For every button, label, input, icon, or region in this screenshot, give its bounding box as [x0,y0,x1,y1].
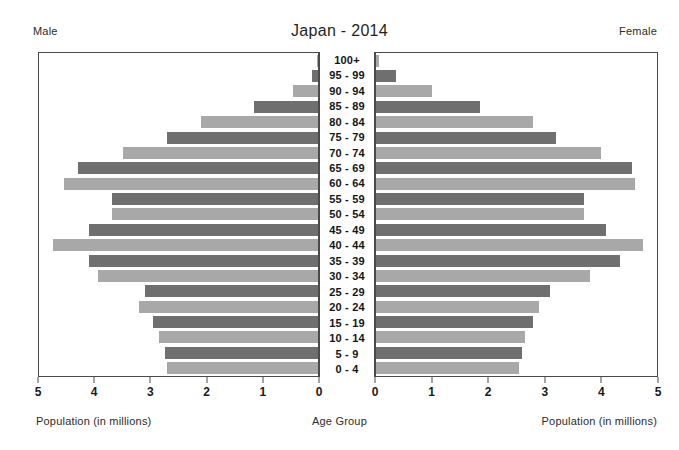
bar-row [39,238,318,253]
female-bar-60-64 [376,178,635,190]
bar-row [39,191,318,206]
bar-row [39,130,318,145]
female-bar-rows [376,53,657,376]
axis-tick-label: 2 [203,385,210,399]
axis-tick [544,377,545,383]
axis-tick-label: 4 [91,385,98,399]
female-bar-5-9 [376,347,522,359]
female-side-label: Female [619,25,657,37]
female-axis-title: Population (in millions) [542,415,657,427]
bar-row [376,207,657,222]
female-bar-55-59 [376,193,584,205]
age-group-label: 25 - 29 [320,284,374,299]
axis-tick [658,377,659,383]
female-bar-100+ [376,55,379,67]
age-group-label: 40 - 44 [320,238,374,253]
male-bar-30-34 [98,270,318,282]
female-bar-15-19 [376,316,533,328]
female-bar-50-54 [376,208,584,220]
axis-tick [488,377,489,383]
bar-row [39,253,318,268]
female-bar-70-74 [376,147,601,159]
male-bar-80-84 [201,116,318,128]
bar-row [376,161,657,176]
male-bar-10-14 [159,331,318,343]
age-group-label: 75 - 79 [320,129,374,144]
axis-tick [319,377,320,383]
axis-tick [206,377,207,383]
age-group-label: 20 - 24 [320,300,374,315]
axis-tick-label: 2 [485,385,492,399]
male-bar-rows [39,53,318,376]
bar-row [39,222,318,237]
female-bar-0-4 [376,362,519,374]
male-bar-90-94 [293,85,318,97]
age-group-label: 80 - 84 [320,114,374,129]
age-group-axis-column: 100+95 - 9990 - 9485 - 8980 - 8475 - 797… [319,52,375,377]
bar-row [39,68,318,83]
age-group-label: 0 - 4 [320,361,374,376]
male-x-axis: 543210 [38,377,319,407]
bar-row [39,314,318,329]
bar-row [39,299,318,314]
female-bar-35-39 [376,255,620,267]
bar-row [376,253,657,268]
male-bar-50-54 [112,208,318,220]
male-bar-100+ [317,55,318,67]
male-bar-75-79 [167,132,318,144]
male-bar-40-44 [53,239,318,251]
male-bar-5-9 [165,347,318,359]
female-bar-80-84 [376,116,533,128]
bar-row [376,191,657,206]
axis-tick-label: 5 [35,385,42,399]
age-group-label: 100+ [320,52,374,67]
bar-row [39,53,318,68]
female-bar-75-79 [376,132,556,144]
axis-tick [150,377,151,383]
female-bar-30-34 [376,270,590,282]
axis-tick [94,377,95,383]
chart-title: Japan - 2014 [0,22,679,40]
male-plot-area [38,52,319,377]
male-bar-15-19 [153,316,318,328]
chart-header: Male Japan - 2014 Female [0,22,679,44]
bar-row [376,68,657,83]
male-bar-25-29 [145,285,318,297]
age-group-label: 45 - 49 [320,222,374,237]
bar-row [376,330,657,345]
male-bar-65-69 [78,162,318,174]
age-group-label: 50 - 54 [320,207,374,222]
bar-row [376,53,657,68]
bar-row [39,84,318,99]
age-group-label: 95 - 99 [320,67,374,82]
axis-tick [601,377,602,383]
bar-row [376,238,657,253]
bar-row [39,115,318,130]
male-bar-70-74 [123,147,318,159]
bar-row [39,345,318,360]
axis-tick [431,377,432,383]
female-bar-20-24 [376,301,539,313]
female-plot-area [375,52,658,377]
bar-row [376,345,657,360]
bar-row [39,99,318,114]
male-bar-45-49 [89,224,318,236]
male-bar-60-64 [64,178,318,190]
female-bar-65-69 [376,162,632,174]
axis-tick-label: 3 [541,385,548,399]
age-group-label: 90 - 94 [320,83,374,98]
male-bar-95-99 [312,70,318,82]
axis-tick-label: 5 [655,385,662,399]
female-bar-90-94 [376,85,432,97]
axis-tick-label: 1 [428,385,435,399]
axis-tick-label: 3 [147,385,154,399]
bar-row [376,284,657,299]
bar-row [39,161,318,176]
male-bar-0-4 [167,362,318,374]
bar-row [376,361,657,376]
female-bar-25-29 [376,285,550,297]
bar-row [39,268,318,283]
axis-tick [375,377,376,383]
bar-row [39,145,318,160]
axis-tick-label: 1 [259,385,266,399]
